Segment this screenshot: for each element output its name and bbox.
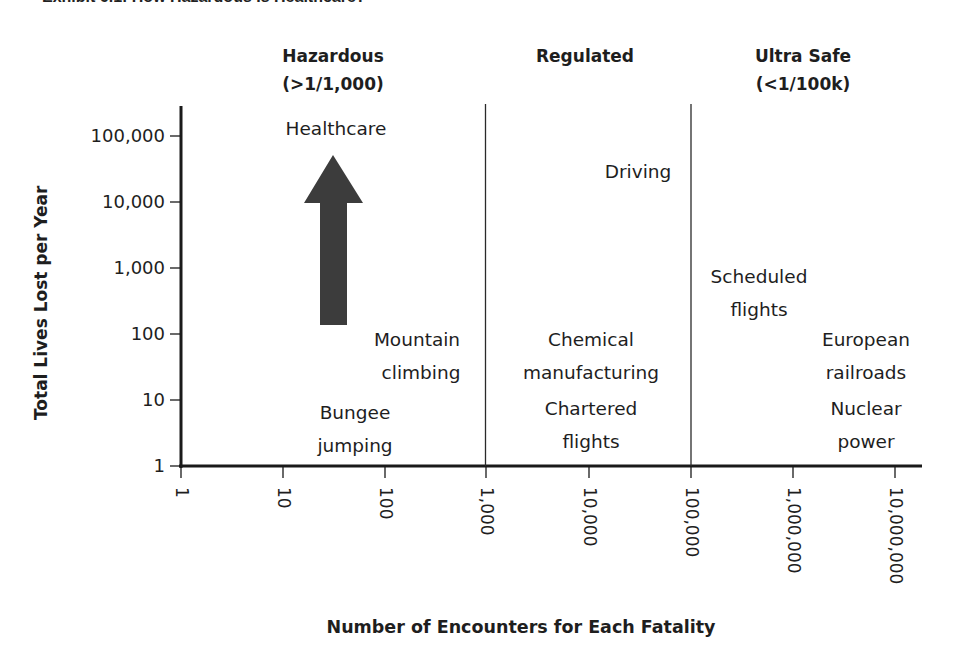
label-european-railroads: European railroads bbox=[822, 323, 910, 389]
x-tick-label: 1,000 bbox=[478, 487, 496, 536]
label-nuclear-power: Nuclear power bbox=[830, 392, 901, 458]
x-tick-label: 100,000 bbox=[683, 487, 701, 557]
label-scheduled-flights: Scheduled flights bbox=[711, 260, 808, 326]
label-line: railroads bbox=[822, 356, 910, 389]
label-line: Bungee bbox=[317, 396, 392, 429]
x-tick-label: 100 bbox=[377, 487, 395, 519]
x-axis-ticks bbox=[181, 466, 895, 478]
label-healthcare: Healthcare bbox=[286, 112, 387, 145]
zone-header-regulated: Regulated bbox=[536, 42, 634, 70]
zone-header-hazardous: Hazardous (>1/1,000) bbox=[282, 42, 384, 98]
label-line: Nuclear bbox=[830, 392, 901, 425]
label-chartered-flights: Chartered flights bbox=[545, 392, 638, 458]
label-driving: Driving bbox=[605, 155, 672, 188]
x-tick-label: 10,000,000 bbox=[887, 487, 905, 584]
x-axis-title: Number of Encounters for Each Fatality bbox=[326, 617, 715, 637]
label-line: Scheduled bbox=[711, 260, 808, 293]
label-line: manufacturing bbox=[523, 356, 659, 389]
label-line: climbing bbox=[374, 356, 461, 389]
y-tick-label: 1,000 bbox=[45, 258, 165, 278]
label-line: European bbox=[822, 323, 910, 356]
y-tick-label: 10,000 bbox=[45, 192, 165, 212]
zone-name-ultra-safe: Ultra Safe bbox=[755, 42, 851, 70]
zone-header-ultra-safe: Ultra Safe (<1/100k) bbox=[755, 42, 851, 98]
x-tick-label: 1 bbox=[173, 487, 191, 498]
label-mountain-climbing: Mountain climbing bbox=[374, 323, 461, 389]
y-tick-label: 100 bbox=[45, 324, 165, 344]
zone-threshold-ultra-safe: (<1/100k) bbox=[755, 70, 851, 98]
label-line: power bbox=[830, 425, 901, 458]
y-tick-label: 1 bbox=[45, 456, 165, 476]
y-axis-title: Total Lives Lost per Year bbox=[31, 186, 51, 420]
x-tick-label: 1,000,000 bbox=[785, 487, 803, 574]
label-line: flights bbox=[711, 293, 808, 326]
label-chemical-manufacturing: Chemical manufacturing bbox=[523, 323, 659, 389]
label-line: flights bbox=[545, 425, 638, 458]
label-line: Chemical bbox=[523, 323, 659, 356]
x-tick-label: 10 bbox=[275, 487, 293, 509]
label-bungee-jumping: Bungee jumping bbox=[317, 396, 392, 462]
label-line: Chartered bbox=[545, 392, 638, 425]
y-tick-label: 10 bbox=[45, 390, 165, 410]
zone-name-regulated: Regulated bbox=[536, 42, 634, 70]
x-tick-label: 10,000 bbox=[581, 487, 599, 546]
y-tick-label: 100,000 bbox=[45, 126, 165, 146]
zone-name-hazardous: Hazardous bbox=[282, 42, 384, 70]
zone-threshold-hazardous: (>1/1,000) bbox=[282, 70, 384, 98]
up-arrow-icon bbox=[304, 155, 363, 325]
y-axis-ticks bbox=[170, 136, 181, 466]
label-line: jumping bbox=[317, 429, 392, 462]
label-line: Mountain bbox=[374, 323, 461, 356]
